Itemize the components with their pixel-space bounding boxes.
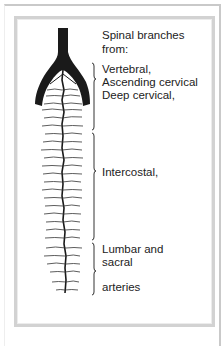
label-sacral: sacral xyxy=(102,256,133,269)
label-ascending-cervical: Ascending cervical xyxy=(102,76,198,89)
label-deep-cervical: Deep cervical, xyxy=(102,89,175,102)
title-line-2: from: xyxy=(102,43,128,56)
label-intercostal: Intercostal, xyxy=(102,166,158,179)
bracket-intercostal xyxy=(92,133,96,240)
brackets xyxy=(92,63,96,295)
title-line-1: Spinal branches xyxy=(102,29,184,42)
label-vertebral: Vertebral, xyxy=(102,63,151,76)
label-arteries: arteries xyxy=(102,281,140,294)
bracket-cervical xyxy=(92,63,96,130)
bracket-lumbar xyxy=(92,243,96,295)
label-lumbar-and: Lumbar and xyxy=(102,243,163,256)
